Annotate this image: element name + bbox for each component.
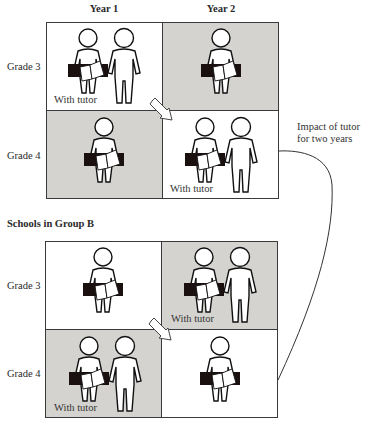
- impact-bracket-line: [278, 151, 332, 380]
- row-label-grade-3-group-a: Grade 3: [7, 61, 51, 72]
- group-a-grid: With tutor: [46, 22, 279, 199]
- row-label-grade-4-group-a: Grade 4: [7, 150, 51, 161]
- column-header-year-1: Year 1: [64, 3, 144, 14]
- grid-border: [45, 241, 278, 418]
- group-b-title: Schools in Group B: [7, 218, 94, 229]
- impact-annotation: Impact of tutor for two years: [297, 121, 360, 145]
- impact-annotation-line-1: Impact of tutor: [297, 121, 360, 133]
- group-b-grid: With tutor With tutor: [45, 241, 278, 418]
- grid-border: [46, 22, 279, 199]
- impact-annotation-line-2: for two years: [297, 133, 360, 145]
- column-header-year-2: Year 2: [181, 3, 261, 14]
